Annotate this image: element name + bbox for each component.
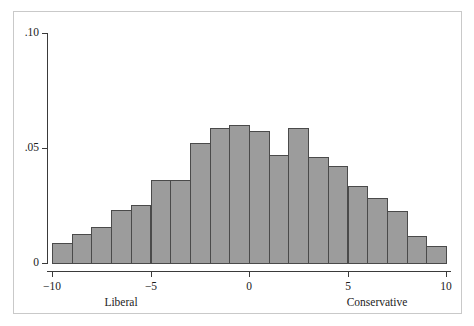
histogram-bar <box>229 125 250 264</box>
x-axis-tick <box>249 271 250 277</box>
axis-annotation-label: Liberal <box>104 296 137 308</box>
axis-annotation-label: Conservative <box>347 296 408 308</box>
histogram-bar <box>308 157 329 264</box>
x-axis-tick <box>348 271 349 277</box>
histogram-bar <box>367 198 388 264</box>
x-axis-tick-label: −10 <box>43 280 61 292</box>
histogram-bar <box>52 243 73 264</box>
x-axis-tick <box>52 271 53 277</box>
y-axis-tick <box>42 33 48 34</box>
x-axis-tick-label: 10 <box>440 280 452 292</box>
histogram-bar <box>170 180 191 264</box>
histogram-figure: 0.05.10 −10−50510 LiberalConservative <box>0 0 474 326</box>
x-axis-tick-label: 5 <box>345 280 351 292</box>
histogram-bar <box>190 143 211 264</box>
histogram-bar <box>131 205 152 264</box>
x-axis-tick <box>151 271 152 277</box>
histogram-bar <box>269 155 290 264</box>
histogram-bar <box>407 236 428 264</box>
histogram-bar <box>72 234 93 264</box>
x-axis-tick-label: −5 <box>145 280 157 292</box>
histogram-bar <box>210 128 231 264</box>
histogram-bar <box>249 131 270 264</box>
histogram-bar <box>151 180 172 264</box>
y-axis-tick-label: .10 <box>0 26 39 38</box>
histogram-bar <box>387 211 408 264</box>
histogram-bar <box>348 186 369 264</box>
histogram-bar <box>91 227 112 264</box>
histogram-bar <box>288 128 309 264</box>
x-axis-tick <box>446 271 447 277</box>
y-axis-tick <box>42 148 48 149</box>
y-axis-tick-label: 0 <box>0 256 39 268</box>
histogram-bar <box>328 166 349 264</box>
histogram-bar <box>426 246 447 264</box>
plot-area: 0.05.10 −10−50510 LiberalConservative <box>0 0 474 326</box>
y-axis-tick-label: .05 <box>0 141 39 153</box>
y-axis-tick <box>42 263 48 264</box>
x-axis-tick-label: 0 <box>246 280 252 292</box>
histogram-bar <box>111 210 132 264</box>
